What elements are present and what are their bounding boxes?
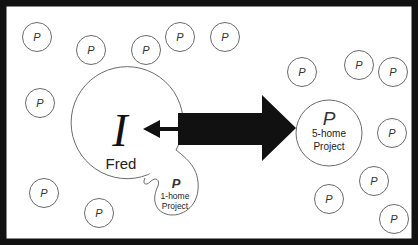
project-node: P — [379, 58, 408, 87]
project-node: P — [77, 36, 106, 65]
project-node: P — [360, 167, 389, 196]
project-node: P — [30, 179, 59, 208]
project-label: P — [221, 31, 229, 43]
project-label: P — [33, 31, 41, 43]
project-label: P — [36, 97, 44, 109]
diagram-frame: PPPPPPPPPPPPPPP P 1-home Project I Fred … — [0, 0, 418, 245]
project-node: P — [132, 36, 161, 65]
person-name: Fred — [106, 155, 137, 172]
project-node: P — [288, 58, 317, 87]
project-node: P — [378, 119, 407, 148]
project-node: P — [315, 185, 344, 214]
project-node: P — [166, 23, 195, 52]
project-node: P — [211, 23, 240, 52]
project-diagram: PPPPPPPPPPPPPPP P 1-home Project I Fred … — [0, 0, 418, 245]
project-label: P — [87, 44, 95, 56]
five-home-project-symbol: P — [323, 108, 336, 129]
project-label: P — [355, 59, 363, 71]
five-home-project-line2: Project — [313, 141, 344, 152]
one-home-project-line1: 1-home — [161, 191, 190, 201]
project-node: P — [23, 23, 52, 52]
person-symbol: I — [111, 105, 130, 156]
project-label: P — [389, 66, 397, 78]
five-home-project-line1: 5-home — [312, 128, 346, 139]
project-label: P — [370, 175, 378, 187]
one-home-project-line2: Project — [162, 201, 189, 211]
one-home-project-symbol: P — [172, 176, 181, 191]
project-label: P — [40, 187, 48, 199]
project-label: P — [95, 207, 103, 219]
project-label: P — [390, 213, 398, 225]
project-label: P — [388, 127, 396, 139]
project-label: P — [142, 44, 150, 56]
project-label: P — [298, 66, 306, 78]
project-node: P — [380, 205, 409, 234]
project-label: P — [176, 31, 184, 43]
project-node: P — [345, 51, 374, 80]
project-label: P — [325, 193, 333, 205]
five-home-project-node: P 5-home Project — [296, 100, 362, 166]
project-node: P — [26, 89, 55, 118]
project-node: P — [85, 199, 114, 228]
